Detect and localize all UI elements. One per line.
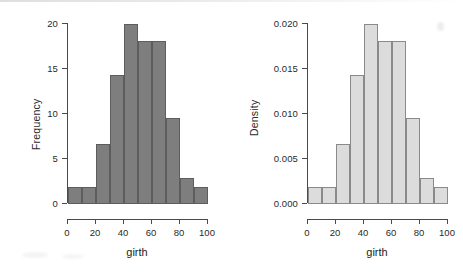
y-tick-label: 15 — [28, 63, 58, 74]
x-tick-label: 40 — [349, 227, 377, 238]
histogram-bars-density — [308, 24, 448, 204]
x-tick-20 — [335, 219, 336, 224]
x-tick-label: 100 — [193, 227, 221, 238]
histogram-bar — [180, 178, 194, 204]
y-axis-label-frequency: Frequency — [30, 99, 42, 150]
y-tick-5 — [62, 158, 67, 159]
x-axis-line — [67, 219, 208, 220]
x-tick-label: 20 — [81, 227, 109, 238]
chart-panel-frequency: Frequency 20 15 10 5 0 — [0, 0, 231, 272]
y-tick-label: 0.005 — [254, 153, 298, 164]
x-axis-label-girth: girth — [347, 246, 407, 258]
x-tick-100 — [447, 219, 448, 224]
histogram-bar — [110, 75, 124, 204]
x-tick-0 — [67, 219, 68, 224]
y-tick-label: 0.020 — [254, 18, 298, 29]
x-tick-80 — [419, 219, 420, 224]
histogram-bar — [68, 187, 82, 204]
y-tick-0020 — [302, 23, 307, 24]
histogram-bar — [406, 118, 420, 204]
x-tick-label: 20 — [321, 227, 349, 238]
x-tick-60 — [151, 219, 152, 224]
chart-panel-density: Density 0.020 0.015 0.010 0.005 0.000 — [232, 0, 463, 272]
histogram-bar — [364, 24, 378, 204]
y-tick-label: 0.000 — [254, 198, 298, 209]
histogram-bar — [350, 75, 364, 204]
x-tick-label: 60 — [377, 227, 405, 238]
histogram-bar — [82, 187, 96, 204]
y-tick-0000 — [302, 203, 307, 204]
x-tick-label: 0 — [293, 227, 321, 238]
y-tick-0010 — [302, 113, 307, 114]
histogram-bar — [138, 41, 152, 204]
histogram-bar — [308, 187, 322, 204]
y-tick-label: 10 — [28, 108, 58, 119]
x-tick-label: 80 — [165, 227, 193, 238]
x-tick-label: 100 — [433, 227, 461, 238]
x-tick-80 — [179, 219, 180, 224]
x-tick-20 — [95, 219, 96, 224]
histogram-bar — [124, 24, 138, 204]
x-tick-0 — [307, 219, 308, 224]
x-tick-60 — [391, 219, 392, 224]
y-tick-label: 0.010 — [254, 108, 298, 119]
x-axis-line — [307, 219, 448, 220]
histogram-bar — [322, 187, 336, 204]
histogram-bar — [420, 178, 434, 204]
y-tick-0015 — [302, 68, 307, 69]
y-tick-0005 — [302, 158, 307, 159]
x-tick-label: 60 — [137, 227, 165, 238]
y-tick-label: 5 — [28, 153, 58, 164]
histogram-bar — [152, 41, 166, 204]
histogram-bar — [378, 41, 392, 204]
x-tick-40 — [363, 219, 364, 224]
y-tick-15 — [62, 68, 67, 69]
y-tick-20 — [62, 23, 67, 24]
figure-panels: Frequency 20 15 10 5 0 — [0, 0, 463, 272]
y-tick-label: 0.015 — [254, 63, 298, 74]
histogram-bar — [392, 41, 406, 204]
x-axis-label-girth: girth — [107, 246, 167, 258]
y-tick-label: 20 — [28, 18, 58, 29]
x-tick-label: 0 — [53, 227, 81, 238]
x-tick-label: 40 — [109, 227, 137, 238]
histogram-bar — [96, 144, 110, 204]
histogram-bar — [336, 144, 350, 204]
histogram-bar — [194, 187, 208, 204]
y-tick-0 — [62, 203, 67, 204]
histogram-bar — [434, 187, 448, 204]
x-tick-100 — [207, 219, 208, 224]
y-tick-label: 0 — [28, 198, 58, 209]
x-tick-40 — [123, 219, 124, 224]
histogram-bar — [166, 118, 180, 204]
y-tick-10 — [62, 113, 67, 114]
x-tick-label: 80 — [405, 227, 433, 238]
histogram-bars-frequency — [68, 24, 208, 204]
